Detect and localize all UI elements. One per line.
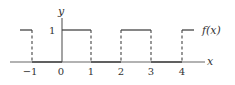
square-wave-figure: y x f(x) 1 −1 0 1 2 3 4 — [0, 0, 235, 85]
x-tick-labels: −1 0 1 2 3 4 — [23, 66, 186, 77]
x-tick: 1 — [88, 66, 94, 77]
y-axis-label: y — [57, 5, 65, 18]
x-tick: 3 — [148, 66, 154, 77]
y-tick-1: 1 — [49, 25, 55, 36]
x-axis-label: x — [207, 55, 214, 68]
function-label: f(x) — [201, 24, 221, 37]
x-tick: 0 — [58, 66, 64, 77]
x-tick: 2 — [118, 66, 124, 77]
x-tick: 4 — [179, 66, 185, 77]
x-tick: −1 — [23, 66, 38, 77]
plot: y x f(x) 1 −1 0 1 2 3 4 — [0, 0, 235, 85]
